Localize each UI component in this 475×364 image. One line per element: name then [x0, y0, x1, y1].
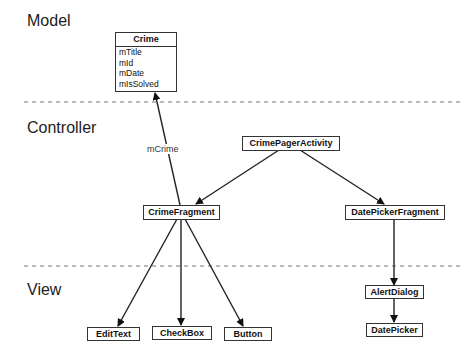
class-box-crime: Crime mTitle mId mDate mIsSolved [115, 32, 177, 92]
class-field: mTitle [116, 47, 176, 58]
class-field: mDate [116, 68, 176, 79]
edge-crimefragment-edittext [118, 219, 177, 326]
edge-label-mcrime: mCrime [146, 144, 180, 154]
layer-label-controller: Controller [27, 119, 96, 137]
node-date-picker-fragment: DatePickerFragment [345, 205, 445, 220]
layer-label-view: View [27, 281, 61, 299]
node-check-box: CheckBox [152, 326, 212, 340]
edge-pager-crimefragment [196, 150, 279, 204]
node-edit-text: EditText [87, 327, 140, 341]
layer-label-model: Model [27, 12, 71, 30]
class-field: mIsSolved [116, 79, 176, 90]
node-button: Button [224, 327, 272, 341]
node-date-picker: DatePicker [366, 323, 423, 337]
edge-crimefragment-button [185, 219, 243, 326]
node-crime-pager-activity: CrimePagerActivity [242, 136, 340, 151]
node-alert-dialog: AlertDialog [365, 285, 424, 299]
class-name: Crime [116, 33, 176, 47]
node-crime-fragment: CrimeFragment [143, 205, 220, 220]
class-field: mId [116, 58, 176, 69]
diagram-lines [0, 0, 475, 364]
edge-pager-datepickerfragment [300, 150, 384, 204]
